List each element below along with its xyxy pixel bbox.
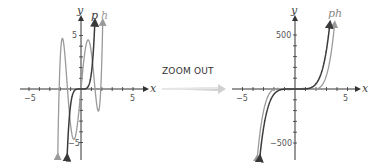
right-x-label: x [362,82,369,95]
left-ymax-label: 5 [72,31,77,40]
left-ymin-label: −5 [68,139,80,148]
left-p-label: p [91,9,98,22]
left-x-label: x [150,82,157,95]
right-xmax-label: 5 [343,94,348,103]
right-ymax-label: 500 [276,31,291,40]
left-xmax-label: 5 [130,94,135,103]
right-y-label: y [290,4,298,17]
left-xmin-label: −5 [24,94,36,103]
right-h-curve [257,24,334,157]
zoom-out-arrow [162,84,226,94]
right-ymin-label: −500 [270,139,292,148]
left-y-label: y [76,4,84,17]
right-graph: −5 5 500 −500 x y ph [232,4,369,160]
figure: −5 5 5 −5 x y p h −5 5 500 −500 x y ph [0,0,386,168]
left-graph: −5 5 5 −5 x y p h [20,4,157,160]
right-xmin-label: −5 [236,94,248,103]
left-h-label: h [101,9,108,22]
zoom-out-label: ZOOM OUT [162,66,214,76]
right-ph-label: ph [328,7,342,20]
